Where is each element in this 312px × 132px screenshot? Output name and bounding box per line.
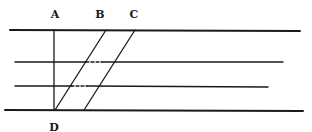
- bottom-horizontal-line: [5, 110, 303, 111]
- slanted-line-c: [84, 30, 135, 110]
- diagram-canvas: [0, 0, 312, 132]
- label-d: D: [49, 122, 59, 132]
- third-horizontal-line-right: [87, 86, 268, 87]
- label-b: B: [95, 9, 104, 20]
- label-a: A: [51, 9, 60, 20]
- label-c: C: [130, 9, 139, 20]
- slanted-line-b: [55, 30, 106, 110]
